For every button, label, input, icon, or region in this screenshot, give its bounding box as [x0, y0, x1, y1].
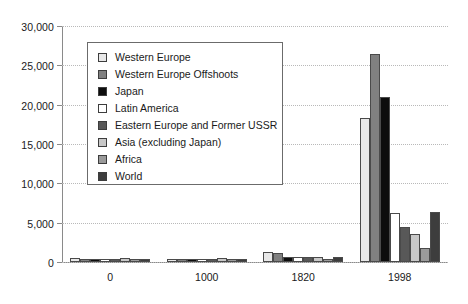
- bar: [400, 227, 410, 262]
- y-tick-mark: [57, 183, 62, 184]
- legend-item: Eastern Europe and Former USSR: [98, 117, 282, 134]
- bar: [80, 259, 90, 262]
- legend-item: Africa: [98, 151, 282, 168]
- legend-swatch-icon: [98, 172, 107, 181]
- bar: [390, 213, 400, 262]
- x-axis-tick-label: 1820: [292, 271, 315, 283]
- bar-group: 1998: [360, 26, 440, 262]
- bar: [283, 257, 293, 262]
- bar: [177, 259, 187, 262]
- legend-item: Western Europe Offshoots: [98, 66, 282, 83]
- legend-swatch-icon: [98, 104, 107, 113]
- bar: [273, 253, 283, 262]
- y-tick-mark: [57, 65, 62, 66]
- bar: [110, 259, 120, 262]
- bar: [167, 259, 177, 262]
- y-axis-tick-label: 30,000: [21, 21, 54, 33]
- y-tick-mark: [57, 105, 62, 106]
- gridline: 0: [62, 262, 448, 263]
- chart-container: 05,00010,00015,00020,00025,00030,000 010…: [0, 0, 468, 304]
- bar: [90, 259, 100, 262]
- legend-item-label: Africa: [115, 154, 142, 165]
- y-tick-mark: [57, 223, 62, 224]
- legend-item-label: Japan: [115, 86, 144, 97]
- legend-item-label: Western Europe Offshoots: [115, 69, 238, 80]
- y-tick-mark: [57, 144, 62, 145]
- bar: [70, 258, 80, 262]
- bar: [263, 252, 273, 262]
- bar: [293, 257, 303, 262]
- legend-item-label: Western Europe: [115, 52, 191, 63]
- legend-item: Japan: [98, 83, 282, 100]
- y-axis-tick-label: 5,000: [27, 218, 54, 230]
- bar: [120, 258, 130, 262]
- bar: [323, 259, 333, 262]
- legend-item-label: Eastern Europe and Former USSR: [115, 120, 277, 131]
- y-axis-tick-label: 25,000: [21, 60, 54, 72]
- legend-item: World: [98, 168, 282, 185]
- legend-swatch-icon: [98, 121, 107, 130]
- bar: [313, 257, 323, 262]
- bar: [303, 257, 313, 262]
- bar: [227, 259, 237, 262]
- bar: [207, 259, 217, 262]
- legend-item-label: Latin America: [115, 103, 179, 114]
- bar: [410, 234, 420, 262]
- y-axis-tick-label: 20,000: [21, 100, 54, 112]
- x-axis-tick-label: 0: [107, 271, 113, 283]
- bar: [237, 259, 247, 262]
- y-axis-tick-label: 10,000: [21, 178, 54, 190]
- legend-item-label: Asia (excluding Japan): [115, 137, 221, 148]
- bar: [130, 259, 140, 262]
- x-axis-tick-label: 1000: [195, 271, 218, 283]
- x-axis-tick-label: 1998: [388, 271, 411, 283]
- bar: [197, 259, 207, 262]
- y-axis-tick-label: 15,000: [21, 139, 54, 151]
- legend-swatch-icon: [98, 53, 107, 62]
- legend-swatch-icon: [98, 155, 107, 164]
- bar: [360, 118, 370, 262]
- bar: [187, 259, 197, 262]
- chart-legend: Western EuropeWestern Europe OffshootsJa…: [87, 42, 283, 185]
- legend-item: Western Europe: [98, 49, 282, 66]
- bar: [380, 97, 390, 262]
- legend-item-label: World: [115, 171, 142, 182]
- legend-item: Latin America: [98, 100, 282, 117]
- bar: [100, 259, 110, 262]
- bar: [430, 212, 440, 262]
- legend-swatch-icon: [98, 138, 107, 147]
- bar: [217, 258, 227, 262]
- legend-item: Asia (excluding Japan): [98, 134, 282, 151]
- bar: [370, 54, 380, 262]
- bar: [420, 248, 430, 262]
- legend-swatch-icon: [98, 70, 107, 79]
- legend-swatch-icon: [98, 87, 107, 96]
- y-axis-tick-label: 0: [48, 257, 54, 269]
- bar: [333, 257, 343, 262]
- bar: [140, 259, 150, 262]
- y-tick-mark: [57, 26, 62, 27]
- y-tick-mark: [57, 262, 62, 263]
